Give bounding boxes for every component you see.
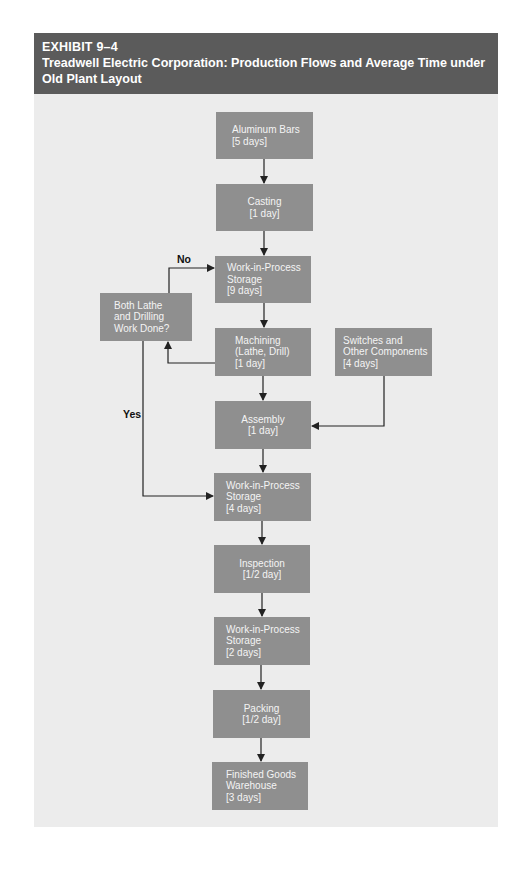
node-packing: Packing [1/2 day] (213, 690, 310, 738)
edge-label-yes: Yes (123, 408, 141, 420)
exhibit-header: EXHIBIT 9–4 Treadwell Electric Corporati… (34, 33, 498, 94)
exhibit-title: Treadwell Electric Corporation: Producti… (42, 55, 498, 86)
node-inspection: Inspection [1/2 day] (214, 545, 310, 593)
node-switches-components: Switches and Other Components [4 days] (335, 328, 432, 376)
node-decision-lathe-drilling: Both Lathe and Drilling Work Done? (100, 293, 192, 341)
node-casting: Casting [1 day] (216, 184, 313, 231)
edge-label-no: No (177, 253, 191, 265)
node-machining: Machining (Lathe, Drill) [1 day] (215, 328, 311, 376)
node-wip-storage-4-days: Work-in-Process Storage [4 days] (214, 473, 311, 521)
exhibit-number: EXHIBIT 9–4 (42, 40, 490, 55)
node-wip-storage-9-days: Work-in-Process Storage [9 days] (215, 256, 311, 303)
node-finished-goods-warehouse: Finished Goods Warehouse [3 days] (212, 762, 308, 810)
node-aluminum-bars: Aluminum Bars [5 days] (216, 112, 313, 159)
node-wip-storage-2-days: Work-in-Process Storage [2 days] (214, 617, 310, 665)
node-assembly: Assembly [1 day] (215, 401, 311, 449)
